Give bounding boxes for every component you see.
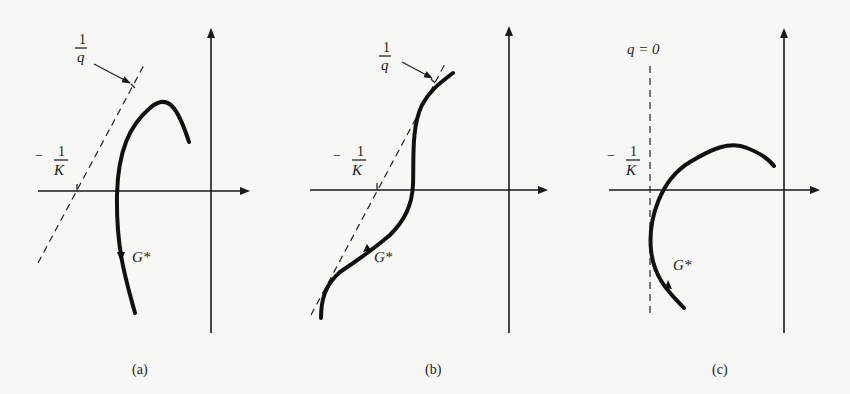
q-label-num: 1 [79,32,86,47]
nyquist-curve [321,73,453,318]
k-label-sign: − [607,148,615,163]
q-zero-label: q = 0 [627,41,660,57]
direction-arrow-icon [665,280,672,289]
q-pointer-arrow [94,64,130,83]
k-label-den: K [625,162,637,178]
k-label-num: 1 [58,144,65,159]
k-label-sign: − [333,148,341,163]
popov-diagram: G* 1 q − 1 K (a) G* 1 q − 1 K (b) G* [0,0,850,394]
q-label-den: q [381,57,389,73]
panel-b: G* 1 q − 1 K (b) [310,28,546,378]
panel-caption: (b) [425,362,442,378]
q-label-den: q [77,49,85,65]
q-label-num: 1 [383,40,390,55]
k-label-den: K [351,162,363,178]
curve-label: G* [374,249,393,265]
k-label-sign: − [35,148,43,163]
curve-label: G* [673,257,692,273]
panel-caption: (c) [712,362,728,378]
k-label-den: K [53,162,65,178]
nyquist-curve [117,102,189,313]
q-tick [431,79,435,83]
k-label-num: 1 [357,144,364,159]
q-pointer-arrow [402,62,432,78]
panel-c: G* q = 0 − 1 K (c) [607,30,818,378]
panel-caption: (a) [132,362,148,378]
curve-label: G* [132,249,151,265]
k-label-num: 1 [630,144,637,159]
panel-a: G* 1 q − 1 K (a) [35,30,248,378]
